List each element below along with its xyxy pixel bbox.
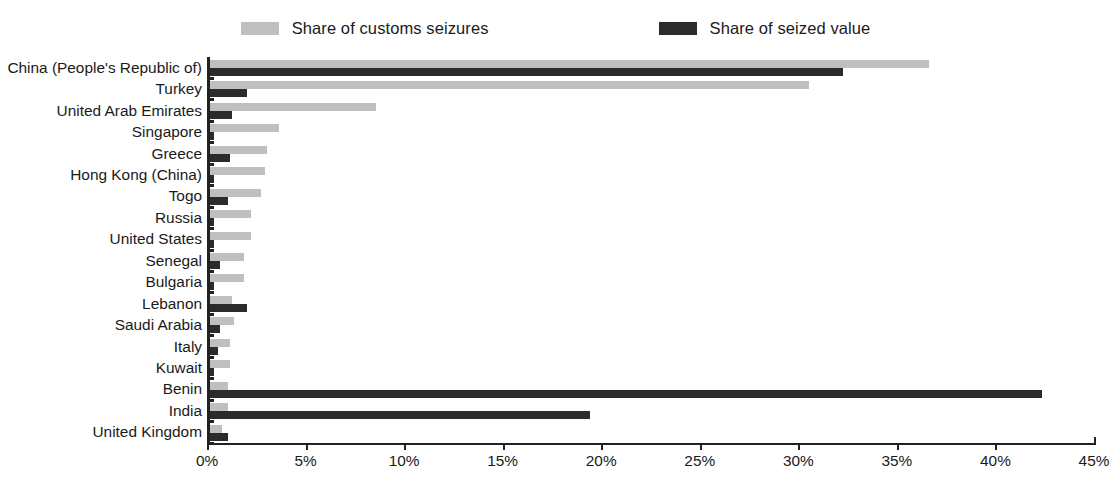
bar-seized-value	[210, 433, 228, 441]
bar-seized-value	[210, 411, 590, 419]
category-label: Russia	[0, 210, 202, 225]
value-axis-tick-label: 35%	[881, 452, 912, 470]
category-axis-tick	[207, 291, 214, 294]
bar-customs-seizures	[210, 425, 222, 433]
bar-seized-value	[210, 154, 230, 162]
plot-area: China (People's Republic of)TurkeyUnited…	[0, 57, 1111, 449]
category-label: United States	[0, 231, 202, 246]
bar-customs-seizures	[210, 253, 244, 261]
value-axis-tick	[404, 443, 406, 450]
value-axis-tick-label: 5%	[294, 452, 316, 470]
legend-entry-customs-seizures: Share of customs seizures	[241, 19, 489, 38]
bar-seized-value	[210, 390, 1042, 398]
category-label: Benin	[0, 381, 202, 396]
category-label: China (People's Republic of)	[0, 60, 202, 75]
category-axis-tick	[207, 420, 214, 423]
legend-label-customs-seizures: Share of customs seizures	[292, 19, 489, 38]
legend-swatch-customs-seizures	[241, 22, 279, 35]
value-axis-tick	[1094, 437, 1096, 445]
category-axis-tick	[207, 163, 214, 166]
bar-seized-value	[210, 240, 214, 248]
category-label: Turkey	[0, 81, 202, 96]
bar-customs-seizures	[210, 210, 251, 218]
legend-swatch-seized-value	[659, 22, 697, 35]
bar-customs-seizures	[210, 60, 929, 68]
category-axis-tick	[207, 334, 214, 337]
bar-customs-seizures	[210, 81, 809, 89]
value-axis-baseline	[207, 443, 1094, 445]
bar-seized-value	[210, 261, 220, 269]
category-label: Italy	[0, 339, 202, 354]
bar-customs-seizures	[210, 167, 265, 175]
bar-customs-seizures	[210, 232, 251, 240]
bars-container: 0%5%10%15%20%25%30%35%40%45%	[207, 57, 1111, 443]
category-axis-tick	[207, 184, 214, 187]
value-axis-tick	[700, 443, 702, 450]
value-axis-tick-label: 30%	[783, 452, 814, 470]
bar-seized-value	[210, 68, 843, 76]
category-axis-tick	[207, 399, 214, 402]
value-axis-tick-label: 0%	[196, 452, 218, 470]
value-axis-tick-label: 15%	[487, 452, 518, 470]
bar-seized-value	[210, 197, 228, 205]
value-axis-tick	[207, 443, 209, 450]
category-label: Lebanon	[0, 296, 202, 311]
bar-customs-seizures	[210, 146, 267, 154]
bar-seized-value	[210, 368, 214, 376]
value-axis-tick-label: 45%	[1079, 452, 1110, 470]
legend-label-seized-value: Share of seized value	[710, 19, 871, 38]
bar-seized-value	[210, 175, 214, 183]
bar-customs-seizures	[210, 317, 234, 325]
bar-chart: Share of customs seizures Share of seize…	[0, 0, 1111, 483]
bar-customs-seizures	[210, 296, 232, 304]
category-label: Bulgaria	[0, 274, 202, 289]
bar-customs-seizures	[210, 360, 230, 368]
category-axis-tick	[207, 227, 214, 230]
category-label: Greece	[0, 146, 202, 161]
category-label: Singapore	[0, 124, 202, 139]
bar-customs-seizures	[210, 403, 228, 411]
legend-entry-seized-value: Share of seized value	[659, 19, 871, 38]
value-axis-tick	[601, 443, 603, 450]
bar-seized-value	[210, 111, 232, 119]
value-axis-tick-label: 10%	[389, 452, 420, 470]
category-label: Saudi Arabia	[0, 317, 202, 332]
bar-seized-value	[210, 218, 214, 226]
category-axis-tick	[207, 377, 214, 380]
category-axis-tick	[207, 249, 214, 252]
category-label: United Arab Emirates	[0, 103, 202, 118]
category-axis-tick	[207, 313, 214, 316]
bar-seized-value	[210, 347, 218, 355]
bar-seized-value	[210, 325, 220, 333]
value-axis-tick-label: 40%	[980, 452, 1011, 470]
category-label: Kuwait	[0, 360, 202, 375]
category-label: India	[0, 403, 202, 418]
category-axis-labels: China (People's Republic of)TurkeyUnited…	[0, 57, 202, 443]
category-label: Togo	[0, 188, 202, 203]
category-axis-tick	[207, 206, 214, 209]
value-axis-tick	[503, 443, 505, 450]
bar-customs-seizures	[210, 124, 279, 132]
bar-customs-seizures	[210, 274, 244, 282]
value-axis-tick	[897, 443, 899, 450]
bar-customs-seizures	[210, 103, 376, 111]
bar-customs-seizures	[210, 339, 230, 347]
category-label: Hong Kong (China)	[0, 167, 202, 182]
value-axis-tick	[306, 443, 308, 450]
category-axis-tick	[207, 141, 214, 144]
category-axis-tick	[207, 356, 214, 359]
value-axis-tick-label: 20%	[586, 452, 617, 470]
value-axis-tick-label: 25%	[684, 452, 715, 470]
value-axis-tick	[995, 443, 997, 450]
bar-seized-value	[210, 304, 247, 312]
category-axis-tick	[207, 120, 214, 123]
chart-legend: Share of customs seizures Share of seize…	[0, 14, 1111, 42]
category-label: Senegal	[0, 253, 202, 268]
bar-customs-seizures	[210, 189, 261, 197]
category-axis-tick	[207, 77, 214, 80]
value-axis-tick	[798, 443, 800, 450]
bar-customs-seizures	[210, 382, 228, 390]
category-label: United Kingdom	[0, 424, 202, 439]
bar-seized-value	[210, 89, 247, 97]
bar-seized-value	[210, 132, 214, 140]
